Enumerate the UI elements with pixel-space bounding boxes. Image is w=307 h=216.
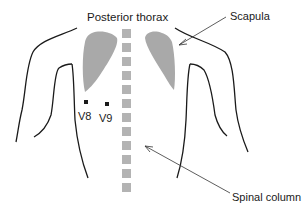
posterior-thorax-diagram xyxy=(0,0,307,216)
spinal-column xyxy=(122,29,131,192)
v9-electrode-marker xyxy=(105,102,109,106)
left-scapula xyxy=(83,32,118,92)
diagram-title: Posterior thorax xyxy=(87,12,168,24)
right-shoulder-outline xyxy=(175,28,248,152)
v9-label: V9 xyxy=(99,113,112,124)
scapula-label: Scapula xyxy=(230,11,270,22)
spinal-column-arrow-icon xyxy=(145,146,230,193)
v8-label: V8 xyxy=(78,111,91,122)
right-flank-outline xyxy=(177,64,190,178)
right-scapula xyxy=(145,32,175,90)
right-arm-inner-outline xyxy=(190,64,227,136)
v8-electrode-marker xyxy=(84,100,88,104)
spinal-column-label: Spinal column xyxy=(232,192,301,203)
left-arm-inner-outline xyxy=(34,64,72,137)
